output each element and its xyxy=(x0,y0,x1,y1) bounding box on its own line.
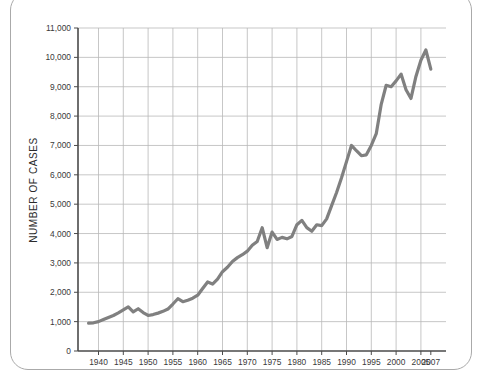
y-tick-label: 10,000 xyxy=(45,52,71,62)
x-tick-label: 1965 xyxy=(213,357,232,367)
y-tick-label: 0 xyxy=(66,346,71,356)
x-axis-tick-labels: 1940194519501955196019651970197519801985… xyxy=(89,357,440,367)
y-axis-title: NUMBER OF CASES xyxy=(28,137,39,243)
vertical-gridlines xyxy=(99,28,421,351)
y-tick-label: 6,000 xyxy=(50,170,71,180)
x-tick-label: 1950 xyxy=(139,357,158,367)
y-tick-label: 3,000 xyxy=(50,258,71,268)
x-tick-label: 1970 xyxy=(238,357,257,367)
y-tick-label: 9,000 xyxy=(50,82,71,92)
line-chart: 01,0002,0003,0004,0005,0006,0007,0008,00… xyxy=(0,0,484,392)
horizontal-gridlines xyxy=(78,28,446,322)
y-tick-label: 4,000 xyxy=(50,229,71,239)
figure-page: 01,0002,0003,0004,0005,0006,0007,0008,00… xyxy=(0,0,484,392)
x-tick-label: 1995 xyxy=(362,357,381,367)
x-tick-label: 2000 xyxy=(387,357,406,367)
x-tick-label: 1945 xyxy=(114,357,133,367)
y-tick-label: 7,000 xyxy=(50,140,71,150)
x-tick-label: 1975 xyxy=(263,357,282,367)
data-series-line xyxy=(89,50,431,323)
y-tick-label: 1,000 xyxy=(50,317,71,327)
x-tick-label: 1990 xyxy=(337,357,356,367)
x-tick-label: 1955 xyxy=(164,357,183,367)
y-tick-label: 5,000 xyxy=(50,199,71,209)
y-axis-tick-labels: 01,0002,0003,0004,0005,0006,0007,0008,00… xyxy=(45,23,71,356)
y-tick-label: 8,000 xyxy=(50,111,71,121)
x-tick-label: 1985 xyxy=(312,357,331,367)
y-tick-label: 2,000 xyxy=(50,287,71,297)
x-tick-label: 1940 xyxy=(89,357,108,367)
x-tick-label: 1960 xyxy=(188,357,207,367)
y-tick-label: 11,000 xyxy=(46,23,71,33)
x-tick-label: 2007 xyxy=(421,357,440,367)
x-tick-label: 1980 xyxy=(288,357,307,367)
